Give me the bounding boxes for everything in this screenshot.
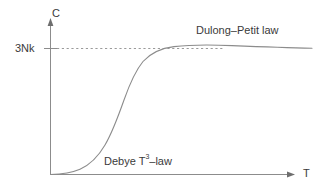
y-axis-arrowhead xyxy=(48,18,54,26)
debye-label-exponent: 3 xyxy=(145,153,149,160)
debye-curve xyxy=(51,45,313,175)
x-axis-label: T xyxy=(303,168,310,179)
x-axis-arrowhead xyxy=(287,172,295,178)
y-tick-label-3nk: 3Nk xyxy=(15,43,35,54)
annotation-dulong-petit-law: Dulong–Petit law xyxy=(196,25,279,36)
annotation-debye-t3-law: Debye T3–law xyxy=(104,154,172,167)
y-axis-label: C xyxy=(52,8,60,19)
debye-label-suffix: –law xyxy=(149,155,172,167)
debye-label-prefix: Debye T xyxy=(104,155,145,167)
heat-capacity-figure: C T 3Nk Dulong–Petit law Debye T3–law xyxy=(0,0,323,188)
